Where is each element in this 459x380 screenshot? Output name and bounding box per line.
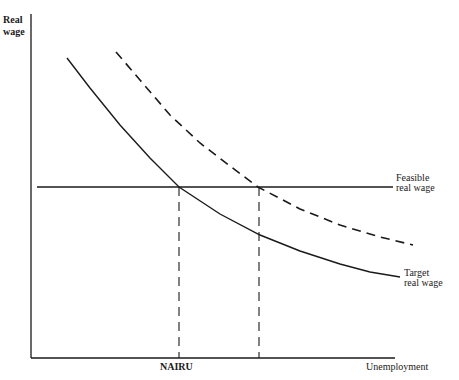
y-axis-label-line2: wage [3, 27, 25, 37]
shifted-target-real-wage-curve [116, 52, 413, 245]
target-real-wage-curve [67, 58, 400, 277]
x-axis-label: Unemployment [366, 362, 428, 372]
feasible-label-line2: real wage [396, 183, 435, 193]
y-axis-label-line1: Real [3, 15, 22, 25]
target-label-line2: real wage [404, 278, 443, 288]
diagram-canvas [0, 0, 459, 380]
nairu-tick-label: NAIRU [160, 362, 193, 372]
